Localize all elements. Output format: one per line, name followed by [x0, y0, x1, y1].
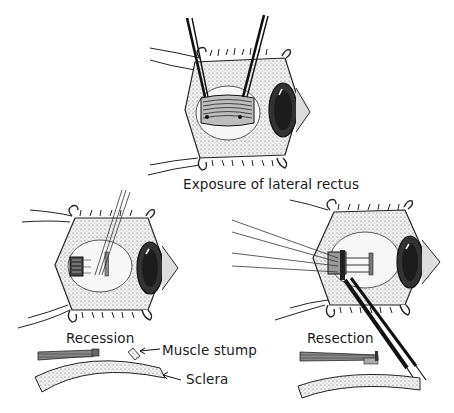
caption-exposure: Exposure of lateral rectus	[183, 176, 359, 192]
caption-resection: Resection	[307, 330, 374, 346]
callout-muscle-stump: Muscle stump	[162, 342, 257, 358]
top-eye-panel	[148, 15, 310, 175]
callout-sclera: Sclera	[186, 371, 228, 387]
recession-eye-panel	[18, 190, 178, 328]
caption-recession: Recession	[66, 330, 134, 346]
recession-cross-section	[35, 348, 181, 392]
